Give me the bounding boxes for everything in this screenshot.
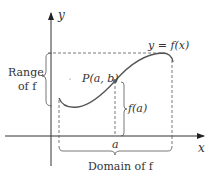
a-tick-label: a <box>112 138 119 151</box>
domain-range-diagram: y x y = f(x) P(a, b) f(a) a Range of f D… <box>0 0 211 182</box>
stray-dot <box>69 78 70 79</box>
curve-label: y = f(x) <box>147 39 189 52</box>
range-label-line2: of f <box>18 80 37 93</box>
f-a-brace <box>121 82 127 136</box>
x-axis-label: x <box>198 141 205 155</box>
point-label: P(a, b) <box>81 72 119 85</box>
f-a-label: f(a) <box>127 102 147 115</box>
dashed-guides <box>48 53 172 145</box>
y-axis-label: y <box>57 8 65 22</box>
domain-label: Domain of f <box>88 160 154 173</box>
range-label-line1: Range <box>8 66 44 79</box>
